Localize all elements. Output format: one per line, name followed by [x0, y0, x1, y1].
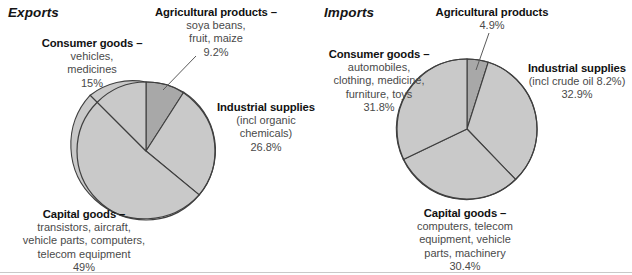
label-line: transistors, aircraft,	[0, 221, 170, 234]
label-percent: 31.8%	[311, 101, 447, 114]
label-line: telecom equipment	[0, 248, 170, 261]
label-head: Industrial supplies	[207, 101, 325, 114]
panel-exports: Exports Agricultural products –	[0, 0, 316, 275]
label-line: computers, telecom	[380, 220, 550, 233]
label-line: soya beans,	[126, 19, 306, 32]
pie-chart-figure: Exports Agricultural products –	[0, 0, 632, 275]
label-agricultural-imports: Agricultural products 4.9%	[412, 6, 572, 32]
label-head: Capital goods –	[0, 208, 170, 221]
label-percent: 26.8%	[207, 141, 325, 154]
label-consumer-imports: Consumer goods – automobiles, clothing, …	[311, 48, 447, 114]
label-line: vehicle parts, computers,	[0, 234, 170, 247]
panel-imports: Imports Agricultural products	[316, 0, 632, 275]
label-line: medicines	[12, 63, 172, 76]
label-line: equipment, vehicle	[380, 233, 550, 246]
label-capital-exports: Capital goods – transistors, aircraft, v…	[0, 208, 170, 274]
label-head: Agricultural products –	[126, 6, 306, 19]
label-head: Agricultural products	[412, 6, 572, 19]
bottom-rule	[0, 272, 632, 273]
label-industrial-exports: Industrial supplies (incl organic chemic…	[207, 101, 325, 154]
label-line: parts, machinery	[380, 247, 550, 260]
label-industrial-imports: Industrial supplies (incl crude oil 8.2%…	[521, 62, 632, 102]
label-line: clothing, medicine,	[311, 74, 447, 87]
label-capital-imports: Capital goods – computers, telecom equip…	[380, 207, 550, 273]
label-line: (incl organic	[207, 114, 325, 127]
label-line: (incl crude oil 8.2%)	[521, 75, 632, 88]
label-head: Capital goods –	[380, 207, 550, 220]
label-line: automobiles,	[311, 61, 447, 74]
label-line: chemicals)	[207, 127, 325, 140]
label-percent: 32.9%	[521, 88, 632, 101]
label-line: vehicles,	[12, 50, 172, 63]
label-consumer-exports: Consumer goods – vehicles, medicines 15%	[12, 37, 172, 90]
label-head: Industrial supplies	[521, 62, 632, 75]
label-head: Consumer goods –	[12, 37, 172, 50]
label-percent: 15%	[12, 77, 172, 90]
label-percent: 4.9%	[412, 19, 572, 32]
label-head: Consumer goods –	[311, 48, 447, 61]
label-line: furniture, toys	[311, 88, 447, 101]
